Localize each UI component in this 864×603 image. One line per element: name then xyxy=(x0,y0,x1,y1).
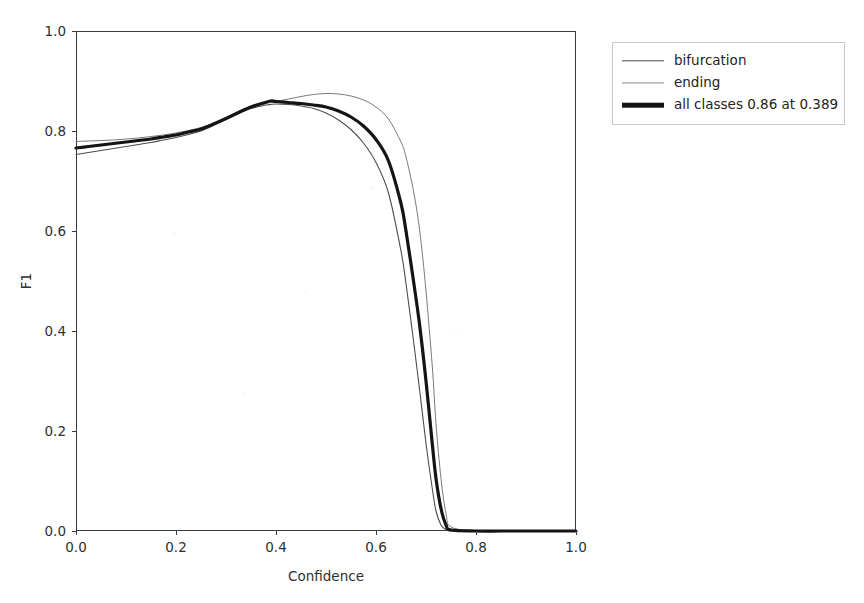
legend-swatch-ending xyxy=(622,77,664,89)
curve-ending xyxy=(76,93,576,531)
y-tick-label: 0.4 xyxy=(26,323,66,339)
legend-label-all-classes: all classes 0.86 at 0.389 xyxy=(674,98,838,112)
legend-item-all-classes[interactable]: all classes 0.86 at 0.389 xyxy=(622,94,835,116)
y-tick-mark xyxy=(72,531,76,532)
y-tick-label: 0.6 xyxy=(26,223,66,239)
x-tick-mark xyxy=(576,531,577,535)
legend-swatch-bifurcation xyxy=(622,55,664,67)
y-tick-mark xyxy=(72,131,76,132)
curve-all xyxy=(76,101,576,531)
x-tick-mark xyxy=(276,531,277,535)
x-tick-label: 0.4 xyxy=(265,539,286,555)
y-tick-label: 0.2 xyxy=(26,423,66,439)
x-tick-label: 0.0 xyxy=(65,539,86,555)
x-tick-label: 0.6 xyxy=(365,539,386,555)
x-tick-mark xyxy=(76,531,77,535)
y-tick-label: 0.0 xyxy=(26,523,66,539)
legend-label-ending: ending xyxy=(674,76,720,90)
curves-layer xyxy=(76,31,576,531)
legend[interactable]: bifurcation ending all classes 0.86 at 0… xyxy=(612,42,845,125)
legend-item-bifurcation[interactable]: bifurcation xyxy=(622,50,835,72)
legend-item-ending[interactable]: ending xyxy=(622,72,835,94)
x-tick-label: 1.0 xyxy=(565,539,586,555)
x-tick-label: 0.2 xyxy=(165,539,186,555)
y-tick-mark xyxy=(72,231,76,232)
x-tick-label: 0.8 xyxy=(465,539,486,555)
x-tick-mark xyxy=(376,531,377,535)
curve-bifurcation xyxy=(76,104,576,531)
figure-canvas: 0.00.20.40.60.81.00.00.20.40.60.81.0 Con… xyxy=(0,0,864,603)
y-tick-mark xyxy=(72,331,76,332)
x-tick-mark xyxy=(476,531,477,535)
y-axis-label: F1 xyxy=(18,273,34,289)
x-tick-mark xyxy=(176,531,177,535)
x-axis-label: Confidence xyxy=(288,568,364,584)
y-tick-label: 0.8 xyxy=(26,123,66,139)
y-tick-label: 1.0 xyxy=(26,23,66,39)
y-tick-mark xyxy=(72,31,76,32)
legend-label-bifurcation: bifurcation xyxy=(674,54,746,68)
legend-swatch-all-classes xyxy=(622,99,664,111)
y-tick-mark xyxy=(72,431,76,432)
